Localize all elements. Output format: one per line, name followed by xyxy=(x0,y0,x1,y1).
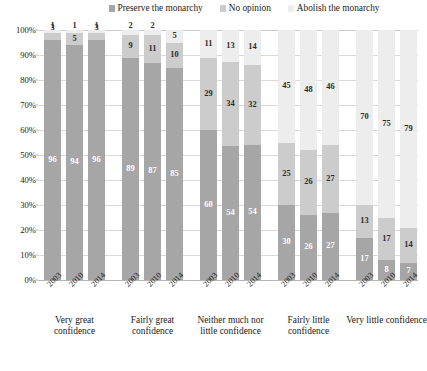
bar-segment-no-opinion[interactable]: 3 xyxy=(88,33,105,41)
bar-segment-abolish[interactable]: 14 xyxy=(244,30,261,65)
bar-segment-preserve[interactable]: 27 xyxy=(322,213,339,281)
bar-value-label: 85 xyxy=(170,170,178,178)
bar-segment-no-opinion[interactable]: 34 xyxy=(222,62,239,146)
bar-value-label: 27 xyxy=(326,175,334,183)
bar-value-label: 48 xyxy=(304,86,312,94)
bar-segment-abolish[interactable]: 11 xyxy=(200,30,217,58)
bar-stack[interactable]: 21187 xyxy=(144,30,161,280)
bar-segment-no-opinion[interactable]: 27 xyxy=(322,145,339,213)
y-axis-tick-mark xyxy=(35,80,38,81)
bar-value-label: 14 xyxy=(404,241,412,249)
bar-value-label: 75 xyxy=(382,120,390,128)
bar-segment-preserve[interactable]: 54 xyxy=(222,146,239,280)
x-axis-category-label: Fairly great confidence xyxy=(112,315,193,336)
bar-segment-no-opinion[interactable]: 13 xyxy=(356,205,373,238)
bar-stack[interactable]: 482626 xyxy=(300,30,317,280)
plot-area: 100%90%80%70%60%50%40%30%20%10%0%1396159… xyxy=(38,30,418,280)
bar-value-label: 5 xyxy=(72,35,76,43)
bar-segment-no-opinion[interactable]: 3 xyxy=(44,33,61,41)
bar-stack[interactable]: 1594 xyxy=(66,30,83,280)
bar-segment-abolish[interactable]: 48 xyxy=(300,30,317,150)
bar-value-label: 94 xyxy=(70,158,78,166)
bar-value-label: 45 xyxy=(282,82,290,90)
y-axis-tick-label: 40% xyxy=(2,176,36,185)
bar-segment-preserve[interactable]: 26 xyxy=(300,215,317,280)
bar-value-label: 14 xyxy=(248,43,256,51)
bar-stack[interactable]: 701317 xyxy=(356,30,373,280)
y-axis-tick-mark xyxy=(35,105,38,106)
bar-value-label: 34 xyxy=(226,100,234,108)
bar-segment-no-opinion[interactable]: 32 xyxy=(244,65,261,145)
bar-value-label: 79 xyxy=(404,125,412,133)
bar-value-label: 25 xyxy=(282,170,290,178)
bar-segment-no-opinion[interactable]: 29 xyxy=(200,58,217,131)
bar-value-label: 26 xyxy=(304,243,312,251)
y-axis-tick-mark xyxy=(35,180,38,181)
bar-segment-no-opinion[interactable]: 17 xyxy=(378,218,395,261)
bar-segment-no-opinion[interactable]: 25 xyxy=(278,143,295,206)
bar-value-label: 17 xyxy=(360,255,368,263)
bar-segment-abolish[interactable]: 75 xyxy=(378,30,395,218)
bar-stack[interactable]: 2989 xyxy=(122,30,139,280)
bar-value-label: 96 xyxy=(48,156,56,164)
bar-value-label: 26 xyxy=(304,178,312,186)
bar-segment-no-opinion[interactable]: 10 xyxy=(166,43,183,68)
y-axis-tick-mark xyxy=(35,280,38,281)
y-axis-tick-label: 30% xyxy=(2,201,36,210)
y-axis-tick-mark xyxy=(35,230,38,231)
bar-segment-preserve[interactable]: 96 xyxy=(88,40,105,280)
bar-segment-abolish[interactable]: 5 xyxy=(166,30,183,43)
y-axis-tick-label: 0% xyxy=(2,276,36,285)
bar-value-label: 30 xyxy=(282,238,290,246)
bar-segment-abolish[interactable]: 46 xyxy=(322,30,339,145)
bar-segment-preserve[interactable]: 85 xyxy=(166,68,183,281)
bar-stack[interactable]: 143254 xyxy=(244,30,261,280)
bar-segment-no-opinion[interactable]: 14 xyxy=(400,228,417,263)
bar-segment-abolish[interactable]: 70 xyxy=(356,30,373,205)
bar-segment-preserve[interactable]: 54 xyxy=(244,145,261,280)
y-axis-tick-label: 90% xyxy=(2,51,36,60)
bar-segment-preserve[interactable]: 30 xyxy=(278,205,295,280)
bar-segment-no-opinion[interactable]: 11 xyxy=(144,35,161,63)
bar-segment-preserve[interactable]: 96 xyxy=(44,40,61,280)
bar-segment-no-opinion[interactable]: 5 xyxy=(66,33,83,46)
bar-stack[interactable]: 79147 xyxy=(400,30,417,280)
x-axis-category-label: Very little confidence xyxy=(346,315,427,326)
bar-segment-abolish[interactable]: 79 xyxy=(400,30,417,228)
legend-item-no-opinion[interactable]: No opinion xyxy=(220,4,271,13)
legend-item-label: Abolish the monarchy xyxy=(297,4,380,13)
bar-value-label: 54 xyxy=(248,208,256,216)
bar-segment-no-opinion[interactable]: 26 xyxy=(300,150,317,215)
bar-stack[interactable]: 1396 xyxy=(44,30,61,280)
y-axis-tick-label: 100% xyxy=(2,26,36,35)
bar-value-label: 27 xyxy=(326,242,334,250)
x-axis-category-label: Fairly little confidence xyxy=(268,315,349,336)
bar-value-label: 60 xyxy=(204,201,212,209)
bar-value-label: 70 xyxy=(360,113,368,121)
bar-segment-abolish[interactable]: 45 xyxy=(278,30,295,143)
legend-item-preserve[interactable]: Preserve the monarchy xyxy=(109,4,203,13)
bar-stack[interactable]: 75178 xyxy=(378,30,395,280)
bar-segment-preserve[interactable]: 60 xyxy=(200,130,217,280)
x-axis-category-label: Very great confidence xyxy=(34,315,115,336)
bar-stack[interactable]: 112960 xyxy=(200,30,217,280)
bar-value-label: 2 xyxy=(150,22,154,30)
y-axis-tick-mark xyxy=(35,255,38,256)
y-axis-tick-label: 50% xyxy=(2,151,36,160)
bar-stack[interactable]: 51085 xyxy=(166,30,183,280)
bar-segment-preserve[interactable]: 87 xyxy=(144,63,161,281)
bar-value-label: 87 xyxy=(148,167,156,175)
bar-stack[interactable]: 1396 xyxy=(88,30,105,280)
y-axis-tick-mark xyxy=(35,155,38,156)
legend-item-abolish[interactable]: Abolish the monarchy xyxy=(288,4,380,13)
bar-stack[interactable]: 462727 xyxy=(322,30,339,280)
bar-value-label: 13 xyxy=(226,42,234,50)
bar-segment-no-opinion[interactable]: 9 xyxy=(122,35,139,58)
bar-stack[interactable]: 452530 xyxy=(278,30,295,280)
bar-stack[interactable]: 133454 xyxy=(222,30,239,280)
bar-segment-preserve[interactable]: 94 xyxy=(66,45,83,280)
bar-segment-abolish[interactable]: 13 xyxy=(222,30,239,62)
bar-segment-preserve[interactable]: 89 xyxy=(122,58,139,281)
bar-value-label: 54 xyxy=(226,209,234,217)
